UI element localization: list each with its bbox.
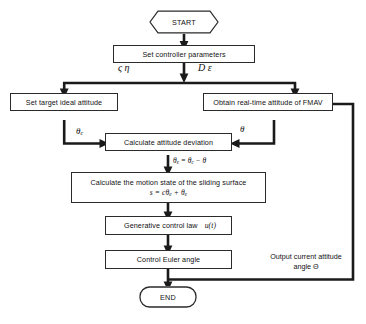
node-calculate-attitude-deviation-label: Calculate attitude deviation: [121, 138, 216, 147]
node-start-label: START: [149, 10, 219, 34]
edge-label-feedback-output: Output current attitude angle Θ: [256, 252, 356, 271]
node-end-label: END: [139, 286, 197, 308]
node-obtain-realtime-attitude-label: Obtain real-time attitude of FMAV: [210, 98, 325, 107]
node-generative-control-law-label: Generative control law: [121, 221, 201, 230]
node-control-euler-angle-label: Control Euler angle: [134, 255, 203, 264]
flowchart-canvas: START Set controller parameters Set targ…: [0, 0, 366, 324]
edge-label-feedback-line2: angle Θ: [293, 262, 318, 271]
node-set-target-ideal-attitude-label: Set target ideal attitude: [23, 98, 105, 107]
node-calculate-attitude-deviation[interactable]: Calculate attitude deviation: [105, 133, 232, 151]
node-set-controller-parameters-label: Set controller parameters: [139, 50, 228, 59]
node-generative-control-law-symbol: u(t): [205, 221, 216, 230]
edge-label-deviation-equation: θe = θc − θ: [173, 156, 206, 165]
node-sliding-surface-label: Calculate the motion state of the slidin…: [88, 178, 250, 187]
edge-label-feedback-line1: Output current attitude: [270, 252, 342, 261]
edge-set-target-to-deviation: [64, 120, 104, 144]
edge-label-params-left: ς η: [118, 62, 130, 73]
node-obtain-realtime-attitude[interactable]: Obtain real-time attitude of FMAV: [203, 93, 333, 111]
edge-label-theta-c: θc: [76, 126, 83, 136]
theta-dot-accent: θ: [181, 188, 185, 197]
node-set-target-ideal-attitude[interactable]: Set target ideal attitude: [10, 93, 118, 111]
node-end[interactable]: END: [139, 286, 197, 308]
node-sliding-surface[interactable]: Calculate the motion state of the slidin…: [71, 172, 266, 203]
node-control-euler-angle[interactable]: Control Euler angle: [105, 250, 232, 269]
edge-label-theta: θ: [240, 124, 244, 134]
node-set-controller-parameters[interactable]: Set controller parameters: [113, 45, 255, 63]
node-sliding-surface-equation: s = cθe + θe: [150, 188, 187, 197]
node-start[interactable]: START: [149, 10, 219, 34]
edge-label-params-right: D ε: [198, 62, 212, 73]
node-generative-control-law[interactable]: Generative control law u(t): [105, 216, 232, 235]
